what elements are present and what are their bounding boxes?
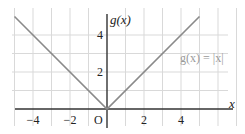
graph-chart: −4−22424 x g(x) O g(x) = |x| — [0, 0, 245, 134]
x-axis-label: x — [228, 96, 235, 111]
y-axis-label: g(x) — [110, 12, 131, 27]
origin-label: O — [94, 113, 103, 127]
x-tick-label: 2 — [141, 113, 147, 127]
x-tick-label: 4 — [178, 113, 184, 127]
x-tick-label: −4 — [27, 113, 40, 127]
function-annotation: g(x) = |x| — [180, 51, 224, 65]
y-tick-label: 2 — [97, 65, 103, 79]
y-tick-label: 4 — [97, 28, 103, 42]
tick-labels: −4−22424 — [27, 28, 184, 127]
x-tick-label: −2 — [64, 113, 77, 127]
